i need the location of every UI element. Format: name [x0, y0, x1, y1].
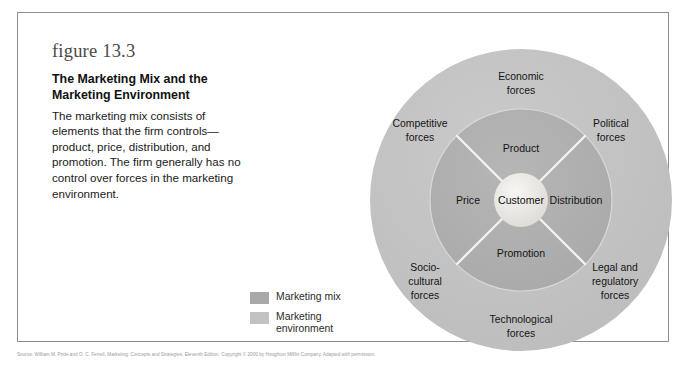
marketing-mix-environment-diagram: Economic forces Political forces Legal a… [348, 33, 684, 358]
force-economic-line-2: forces [507, 85, 535, 96]
caption-block: figure 13.3 The Marketing Mix and the Ma… [52, 41, 252, 201]
mix-label-promotion: Promotion [497, 247, 545, 259]
legend-swatch-marketing-environment [250, 312, 269, 324]
caption-title-line-2: Marketing Environment [52, 88, 190, 102]
force-technological-line-2: forces [507, 328, 535, 339]
force-sociocultural-line-3: forces [411, 290, 439, 301]
force-competitive-line-2: forces [406, 132, 434, 143]
force-technological-line-1: Technological [490, 314, 553, 325]
caption-title: The Marketing Mix and the Marketing Envi… [52, 72, 252, 104]
force-political-line-2: forces [597, 132, 625, 143]
figure-number: figure 13.3 [52, 41, 252, 62]
force-competitive-line-1: Competitive [393, 118, 448, 129]
mix-label-distribution: Distribution [550, 194, 603, 206]
force-legal-line-2: regulatory [592, 276, 639, 287]
mix-label-price: Price [456, 194, 480, 206]
force-economic-line-1: Economic [498, 71, 544, 82]
legend-swatch-marketing-mix [250, 292, 269, 304]
force-sociocultural-line-2: cultural [408, 276, 442, 287]
core-label-customer: Customer [498, 194, 544, 206]
legend-label-marketing-mix: Marketing mix [276, 291, 341, 303]
force-sociocultural-line-1: Socio- [410, 262, 439, 273]
caption-title-line-1: The Marketing Mix and the [52, 72, 208, 86]
force-legal-line-1: Legal and [592, 262, 638, 273]
mix-label-product: Product [503, 142, 540, 154]
force-political-line-1: Political [593, 118, 629, 129]
caption-description: The marketing mix consists of elements t… [52, 108, 252, 201]
figure-frame: figure 13.3 The Marketing Mix and the Ma… [17, 12, 669, 342]
force-legal-line-3: forces [601, 290, 629, 301]
legend-label-marketing-environment: Marketing environment [276, 311, 358, 336]
source-citation: Source: William M. Pride and O. C. Ferre… [17, 352, 677, 357]
